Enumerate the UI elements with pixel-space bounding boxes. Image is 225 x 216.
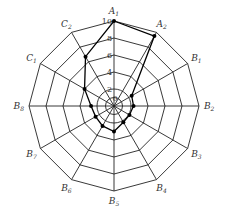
data-point (83, 87, 87, 91)
data-point (130, 94, 134, 98)
data-point (152, 34, 156, 38)
axis-label: B4 (155, 183, 167, 194)
radar-chart: 0246810 A1A2B1B2B3B4B5B6B7B8C1C2 (0, 0, 225, 216)
radial-tick-labels: 0246810 (102, 17, 118, 103)
data-point (132, 104, 136, 108)
axis-label: B2 (203, 101, 215, 112)
radar-axes (29, 21, 199, 191)
axis-label: A2 (155, 19, 167, 30)
data-point (89, 104, 93, 108)
data-point (127, 113, 131, 117)
axis-label: B3 (190, 149, 202, 160)
axis-label: C2 (61, 19, 72, 30)
data-point (121, 120, 125, 124)
data-point (112, 19, 116, 23)
radial-tick-label: 8 (107, 34, 112, 43)
radial-tick-label: 4 (107, 68, 112, 77)
data-point (112, 130, 116, 134)
radial-tick-label: 0 (112, 94, 117, 103)
axis-label: B7 (25, 149, 37, 160)
axis-label: A1 (108, 6, 119, 17)
data-point (84, 55, 88, 59)
axis-label: B5 (108, 196, 120, 207)
data-point (94, 115, 98, 119)
axis-label: B8 (13, 101, 25, 112)
data-point (101, 124, 105, 128)
axis-label: B1 (190, 53, 201, 64)
radial-tick-label: 6 (107, 51, 112, 60)
radial-tick-label: 2 (107, 85, 112, 94)
axis-label: C1 (26, 53, 37, 64)
axis-label: B6 (60, 183, 72, 194)
